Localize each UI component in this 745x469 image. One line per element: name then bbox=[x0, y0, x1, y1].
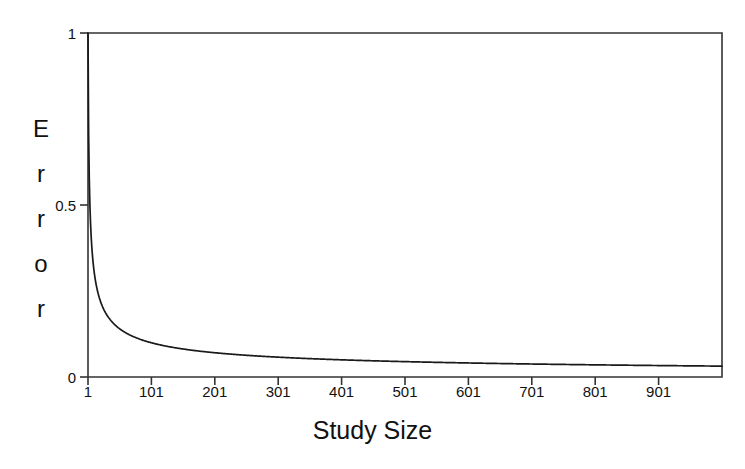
x-axis-tick-labels: 1 101 201 301 401 501 601 701 801 901 bbox=[0, 383, 745, 407]
x-tick-label: 401 bbox=[329, 383, 354, 400]
plot-frame bbox=[88, 33, 722, 377]
x-tick-label: 101 bbox=[139, 383, 164, 400]
x-tick-label: 501 bbox=[392, 383, 417, 400]
chart-container: E r r o r 1 0.5 0 bbox=[0, 0, 745, 469]
x-tick-label: 601 bbox=[456, 383, 481, 400]
x-tick-label: 701 bbox=[519, 383, 544, 400]
x-tick-label: 801 bbox=[583, 383, 608, 400]
x-axis-title: Study Size bbox=[0, 416, 745, 445]
x-tick-label: 301 bbox=[266, 383, 291, 400]
data-series-line bbox=[88, 33, 722, 366]
y-tick-marks bbox=[80, 33, 88, 377]
x-tick-label: 1 bbox=[84, 383, 92, 400]
x-tick-label: 201 bbox=[202, 383, 227, 400]
x-tick-label: 901 bbox=[646, 383, 671, 400]
